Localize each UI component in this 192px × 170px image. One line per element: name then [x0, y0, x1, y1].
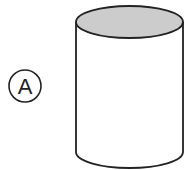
- cylinder-shape: [76, 6, 183, 168]
- cylinder-body: [76, 22, 183, 168]
- cylinder-top: [76, 6, 183, 38]
- label-letter: A: [18, 74, 33, 99]
- option-label-a: A: [9, 70, 41, 102]
- figure-canvas: A: [0, 0, 192, 170]
